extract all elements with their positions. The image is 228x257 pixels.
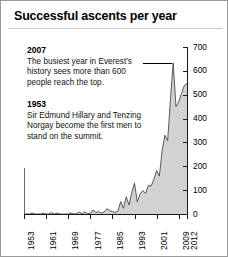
x-axis-label-1969: 1969	[71, 231, 79, 250]
annotation-1953: 1953 Sir Edmund Hillary and Tenzing Norg…	[27, 99, 149, 142]
y-axis-tick-100	[183, 190, 188, 191]
x-axis-label-1977: 1977	[94, 231, 102, 250]
x-axis-tick-2009	[179, 215, 180, 219]
x-axis-label-1985: 1985	[116, 231, 124, 250]
x-axis-tick-1985	[112, 215, 113, 219]
y-axis-label-400: 400	[193, 114, 207, 122]
annotation-1953-text: Sir Edmund Hillary and Tenzing Norgay be…	[27, 111, 149, 142]
y-axis-tick-600	[183, 71, 188, 72]
y-axis-tick-700	[183, 47, 188, 48]
y-axis-label-0: 0	[193, 210, 198, 218]
y-axis-label-500: 500	[193, 90, 207, 98]
x-axis-tick-2001	[157, 215, 158, 219]
title-divider	[8, 28, 222, 29]
y-axis-tick-300	[183, 142, 188, 143]
y-axis-stub	[24, 168, 25, 215]
x-axis-label-1953: 1953	[27, 231, 35, 250]
x-axis-tick-1977	[90, 215, 91, 219]
y-axis-tick-200	[183, 166, 188, 167]
y-axis-line	[187, 47, 188, 214]
x-axis-tick-1961	[46, 215, 47, 219]
annotation-2007-leader-line	[143, 63, 172, 64]
annotation-2007-year: 2007	[27, 45, 149, 56]
y-axis-label-600: 600	[193, 66, 207, 74]
annotation-2007: 2007 The busiest year in Everest's histo…	[27, 45, 149, 88]
y-axis-tick-400	[183, 119, 188, 120]
y-axis-tick-500	[183, 95, 188, 96]
x-axis-label-2012: 2012	[190, 231, 198, 250]
page-title: Successful ascents per year	[14, 9, 177, 23]
x-axis-tick-1953	[24, 215, 25, 219]
x-axis-tick-1993	[135, 215, 136, 219]
y-axis-label-700: 700	[193, 43, 207, 51]
annotation-2007-text: The busiest year in Everest's history se…	[27, 57, 149, 88]
x-axis-tick-1969	[68, 215, 69, 219]
x-axis-tick-2012	[187, 215, 188, 219]
x-axis-label-1993: 1993	[138, 231, 146, 250]
x-axis-label-2001: 2001	[160, 231, 168, 250]
y-axis-label-300: 300	[193, 138, 207, 146]
x-axis-label-1961: 1961	[49, 231, 57, 250]
annotation-1953-year: 1953	[27, 99, 149, 110]
chart-figure: Successful ascents per year 2007 The bus…	[0, 0, 228, 257]
y-axis-label-200: 200	[193, 162, 207, 170]
y-axis-label-100: 100	[193, 186, 207, 194]
x-axis-line	[24, 214, 188, 215]
